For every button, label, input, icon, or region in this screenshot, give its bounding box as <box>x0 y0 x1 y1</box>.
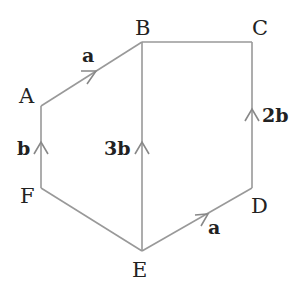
edge-DE <box>142 188 252 251</box>
arrow-AB-icon <box>81 71 96 84</box>
edges <box>41 42 252 251</box>
vector-label-FA: b <box>17 137 30 159</box>
vector-label-AB: a <box>82 44 94 66</box>
label-D: D <box>251 194 268 218</box>
vector-diagram: A B C C D E F a b 3b 2b a <box>0 0 306 287</box>
edge-EF <box>41 188 142 251</box>
vector-label-EB: 3b <box>104 137 131 159</box>
label-E: E <box>132 258 147 282</box>
label-F: F <box>20 184 35 208</box>
vector-label-DC: 2b <box>262 104 289 126</box>
label-A: A <box>18 84 35 108</box>
label-C-visible: C <box>252 16 268 40</box>
label-B: B <box>135 16 150 40</box>
point-labels: A B C C D E F <box>18 16 268 282</box>
vector-labels: a b 3b 2b a <box>17 44 289 238</box>
vector-label-ED: a <box>208 216 220 238</box>
